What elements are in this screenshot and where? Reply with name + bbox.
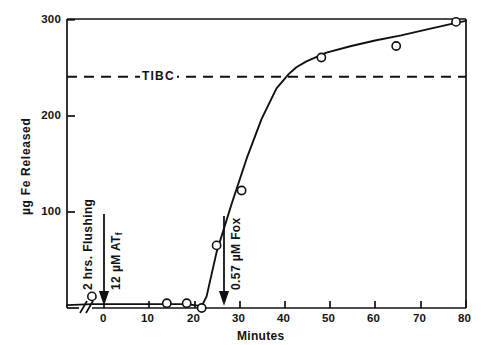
x-tick-label-30: 30 bbox=[232, 313, 245, 325]
y-axis-ticks bbox=[67, 20, 75, 212]
y-tick-label-300: 300 bbox=[28, 14, 61, 26]
data-point bbox=[163, 299, 171, 307]
x-tick-label-80: 80 bbox=[458, 313, 471, 325]
data-point bbox=[317, 53, 325, 61]
chart-canvas bbox=[0, 0, 495, 345]
data-point bbox=[213, 241, 221, 249]
atf-annotation-label: 12 µM ATf bbox=[110, 232, 124, 290]
x-tick-label-70: 70 bbox=[413, 313, 426, 325]
atf-arrow bbox=[100, 214, 108, 303]
tibc-label: TIBC bbox=[140, 70, 177, 82]
fox-annotation-label: 0.57 µM Fox bbox=[230, 217, 242, 290]
fit-curve bbox=[67, 21, 466, 306]
fox-arrow bbox=[220, 216, 228, 303]
data-point bbox=[198, 304, 206, 312]
axis-frame bbox=[67, 19, 466, 308]
atf-annotation-text: 12 µM AT bbox=[109, 235, 123, 290]
x-axis-title: Minutes bbox=[237, 330, 284, 342]
x-tick-label-0: 0 bbox=[100, 313, 107, 325]
figure-container: 300 200 100 0 10 20 30 40 50 60 70 80 Mi… bbox=[0, 0, 495, 345]
axis-break-marks bbox=[80, 301, 93, 313]
x-tick-label-50: 50 bbox=[322, 313, 335, 325]
flushing-annotation-label: 2 hrs. Flushing bbox=[82, 199, 94, 290]
data-points bbox=[88, 18, 460, 312]
data-point bbox=[452, 18, 460, 26]
data-point bbox=[183, 299, 191, 307]
x-tick-label-40: 40 bbox=[277, 313, 290, 325]
x-tick-label-10: 10 bbox=[141, 313, 154, 325]
data-point bbox=[88, 292, 96, 300]
x-tick-label-60: 60 bbox=[367, 313, 380, 325]
data-point bbox=[392, 42, 400, 50]
atf-annotation-subscript: f bbox=[114, 232, 124, 235]
y-axis-title: µg Fe Released bbox=[20, 118, 32, 215]
data-point bbox=[238, 186, 246, 194]
x-tick-label-20: 20 bbox=[187, 313, 200, 325]
